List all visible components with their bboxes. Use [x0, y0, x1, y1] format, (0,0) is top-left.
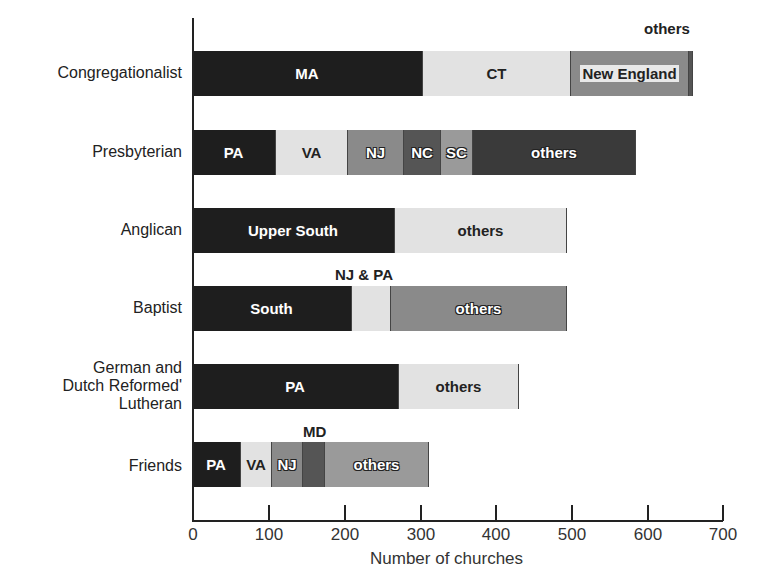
row-label-friends: Friends — [129, 457, 182, 475]
label-others-cong: others — [644, 20, 690, 37]
seg-nj-pa — [352, 286, 391, 331]
seg-others: others — [399, 364, 519, 409]
tick-label-200: 200 — [331, 525, 359, 545]
tick-300 — [420, 505, 422, 521]
seg-others: others — [391, 286, 567, 331]
seg-others — [689, 51, 693, 96]
seg-va: VA — [276, 130, 348, 175]
tick-label-400: 400 — [482, 525, 510, 545]
row-label-german-2: Dutch Reformed' — [62, 377, 182, 395]
seg-nc: NC — [404, 130, 441, 175]
seg-pa: PA — [192, 130, 276, 175]
seg-nj: NJ — [272, 442, 303, 487]
seg-pa: PA — [192, 364, 399, 409]
row-label-anglican: Anglican — [121, 221, 182, 239]
tick-600 — [647, 505, 649, 521]
row-label-baptist: Baptist — [133, 299, 182, 317]
x-axis-title: Number of churches — [370, 549, 523, 569]
tick-400 — [495, 505, 497, 521]
tick-label-600: 600 — [634, 525, 662, 545]
tick-label-300: 300 — [407, 525, 435, 545]
row-label-german-1: German and — [93, 359, 182, 377]
tick-label-0: 0 — [188, 525, 197, 545]
row-label-german-3: Lutheran — [119, 395, 182, 413]
bar-friends: PA VA NJ others — [192, 442, 429, 487]
seg-upper-south: Upper South — [192, 208, 395, 253]
bar-congregationalist: MA CT New England — [192, 51, 693, 96]
tick-200 — [344, 505, 346, 521]
label-md: MD — [303, 423, 326, 440]
x-axis-line — [192, 520, 723, 522]
row-label-congregationalist: Congregationalist — [57, 64, 182, 82]
bar-anglican: Upper South others — [192, 208, 567, 253]
seg-ct: CT — [423, 51, 571, 96]
seg-new-england: New England — [571, 51, 689, 96]
tick-100 — [268, 505, 270, 521]
seg-nj: NJ — [348, 130, 404, 175]
label-nj-pa: NJ & PA — [335, 266, 393, 283]
tick-label-100: 100 — [255, 525, 283, 545]
seg-pa: PA — [192, 442, 241, 487]
bar-baptist: South others — [192, 286, 567, 331]
seg-sc: SC — [441, 130, 473, 175]
tick-500 — [571, 505, 573, 521]
seg-others: others — [325, 442, 429, 487]
tick-label-700: 700 — [709, 525, 737, 545]
bar-german-dutch-lutheran: PA others — [192, 364, 519, 409]
seg-va: VA — [241, 442, 272, 487]
seg-md — [303, 442, 325, 487]
seg-others: others — [473, 130, 636, 175]
bar-presbyterian: PA VA NJ NC SC others — [192, 130, 636, 175]
tick-label-500: 500 — [558, 525, 586, 545]
row-label-presbyterian: Presbyterian — [92, 143, 182, 161]
seg-others: others — [395, 208, 567, 253]
y-axis-line — [192, 18, 194, 522]
seg-south: South — [192, 286, 352, 331]
seg-ma: MA — [192, 51, 423, 96]
tick-700 — [722, 505, 724, 521]
